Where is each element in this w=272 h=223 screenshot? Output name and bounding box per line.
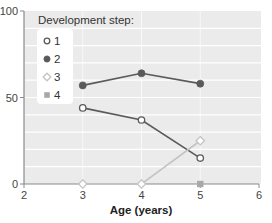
square-marker (197, 181, 203, 187)
legend-label: 4 (54, 89, 61, 101)
line-chart: 050100 23456 Age (years) Development ste… (0, 0, 272, 223)
legend-label: 2 (54, 53, 60, 65)
filled-circle-marker (44, 56, 50, 62)
legend-title: Development step: (38, 14, 134, 26)
legend: 1234 (37, 29, 73, 104)
y-tick-label: 50 (6, 92, 18, 104)
square-marker (44, 92, 50, 98)
y-tick-label: 100 (0, 5, 18, 17)
x-tick-label: 5 (197, 189, 203, 201)
legend-label: 1 (54, 35, 60, 47)
y-tick-label: 0 (12, 178, 18, 190)
filled-circle-marker (138, 70, 145, 77)
filled-circle-marker (79, 82, 86, 89)
x-axis-title: Age (years) (110, 204, 173, 216)
open-circle-marker (197, 155, 203, 161)
filled-circle-marker (197, 80, 204, 87)
y-axis-ticks: 050100 (0, 5, 24, 190)
x-tick-label: 4 (138, 189, 144, 201)
open-circle-marker (80, 105, 86, 111)
x-tick-label: 6 (256, 189, 262, 201)
legend-label: 3 (54, 71, 60, 83)
open-circle-marker (138, 117, 144, 123)
open-circle-marker (44, 38, 50, 44)
series-4 (197, 181, 203, 187)
x-tick-label: 2 (21, 189, 27, 201)
x-tick-label: 3 (80, 189, 86, 201)
